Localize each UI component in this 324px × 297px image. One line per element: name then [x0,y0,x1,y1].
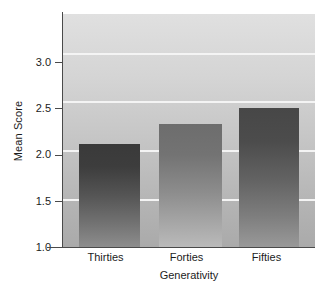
plot-area [63,14,315,247]
bar-thirties [79,144,140,247]
x-axis-title: Generativity [63,269,315,281]
y-tick-label: 2.5 [10,102,51,114]
bar-fifties [239,108,299,247]
x-tick-label-fifties: Fifties [235,251,298,263]
y-tick-label: 2.0 [10,148,51,160]
y-axis-title: Mean Score [12,71,24,191]
y-tick-label: 1.0 [10,241,51,253]
gridline [63,53,315,55]
y-tick-label: 1.5 [10,195,51,207]
x-tick-label-forties: Forties [155,251,218,263]
x-tick-label-thirties: Thirties [74,251,137,263]
x-axis-line [47,247,315,248]
y-axis-line [62,12,63,248]
y-tick-label: 3.0 [10,56,51,68]
bar-chart: Mean Score 3.0 2.5 2.0 1.5 1.0 Thirties … [0,0,324,297]
bar-forties [159,124,222,247]
gridline [63,101,315,103]
